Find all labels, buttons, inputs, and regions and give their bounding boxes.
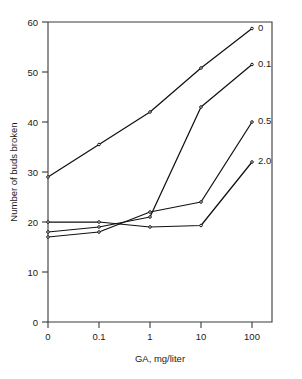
y-tick-label-0: 0: [33, 317, 38, 328]
series-0.5-point-10: [200, 201, 203, 204]
series-2.0-point-0: [47, 221, 50, 224]
series-0-end-label: 0: [258, 22, 263, 33]
series-0.5-end-label: 0.5: [258, 115, 271, 126]
y-axis-ticks: [42, 22, 48, 322]
series-0-line: [48, 29, 252, 178]
series-2.0: 2.0: [47, 155, 272, 228]
series-0.1-point-100: [251, 63, 254, 66]
x-tick-label-10: 10: [196, 331, 207, 342]
series-2.0-end-label: 2.0: [258, 155, 271, 166]
y-axis-title: Number of buds broken: [8, 122, 19, 221]
x-tick-label-1: 1: [147, 331, 152, 342]
series-0-point-0.1: [98, 143, 101, 146]
y-tick-label-60: 60: [27, 17, 38, 28]
series-0-point-1: [149, 111, 152, 114]
chart-figure: 0 10 20 30 40 50 60 0 0.1 1 10 100 GA, m…: [0, 0, 302, 379]
plot-frame: [48, 22, 272, 322]
series-0.5-point-1: [149, 211, 152, 214]
series-0.5: 0.5: [47, 115, 272, 238]
x-tick-label-0: 0: [45, 331, 50, 342]
series-0.5-point-0: [47, 236, 50, 239]
y-tick-label-10: 10: [27, 267, 38, 278]
series-0.5-point-100: [251, 121, 254, 124]
series-2.0-point-1: [149, 226, 152, 229]
series-2.0-point-0.1: [98, 221, 101, 224]
series-0.1-end-label: 0.1: [258, 58, 271, 69]
series-0.1-point-0: [47, 231, 50, 234]
y-tick-label-50: 50: [27, 67, 38, 78]
y-axis-tick-labels: 0 10 20 30 40 50 60: [27, 17, 38, 328]
series-0-point-0: [47, 176, 50, 179]
series-0-point-100: [251, 27, 254, 30]
series-0.1-point-10: [200, 106, 203, 109]
x-tick-label-0.1: 0.1: [92, 331, 105, 342]
y-tick-label-30: 30: [27, 167, 38, 178]
x-axis-tick-labels: 0 0.1 1 10 100: [45, 331, 260, 342]
series-2.0-point-10: [200, 224, 203, 227]
series-0-point-10: [200, 67, 203, 70]
x-axis-title: GA, mg/liter: [135, 353, 185, 364]
series-0.1-line: [48, 65, 252, 233]
x-axis-ticks: [48, 322, 252, 328]
series-2.0-point-100: [251, 161, 254, 164]
line-chart: 0 10 20 30 40 50 60 0 0.1 1 10 100 GA, m…: [0, 0, 302, 379]
series-0.1-point-1: [149, 216, 152, 219]
y-tick-label-20: 20: [27, 217, 38, 228]
x-tick-label-100: 100: [244, 331, 260, 342]
series-0.1-point-0.1: [98, 226, 101, 229]
y-tick-label-40: 40: [27, 117, 38, 128]
series-0.5-point-0.1: [98, 231, 101, 234]
series-0.5-line: [48, 122, 252, 237]
